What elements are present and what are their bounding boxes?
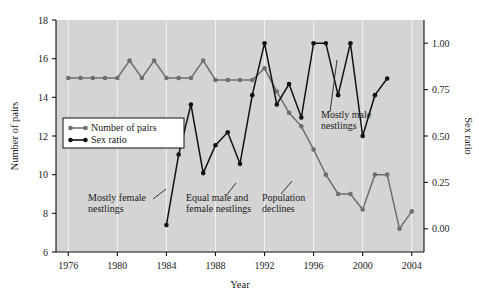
data-point-number-of-pairs xyxy=(311,147,316,152)
data-point-sex-ratio xyxy=(176,152,181,157)
annotation-label-0-line2: nestlings xyxy=(88,203,124,214)
chart-canvas: 6810121416180.000.250.500.751.0019761980… xyxy=(0,0,479,301)
data-point-number-of-pairs xyxy=(397,227,402,232)
legend-marker-1-right xyxy=(83,138,88,143)
data-point-sex-ratio xyxy=(299,115,304,120)
x-axis-tick-label: 1996 xyxy=(304,260,324,271)
y-axis-right-tick-label: 0.50 xyxy=(432,131,450,142)
data-point-number-of-pairs xyxy=(385,172,390,177)
y-axis-left-tick-label: 6 xyxy=(43,247,48,258)
data-point-sex-ratio xyxy=(213,143,218,148)
x-axis-tick-label: 2004 xyxy=(402,260,422,271)
legend-label-0: Number of pairs xyxy=(91,122,157,133)
data-point-sex-ratio xyxy=(348,41,353,46)
y-axis-left-tick-label: 12 xyxy=(38,131,48,142)
annotation-label-2-line2: declines xyxy=(262,203,295,214)
chart-figure: 6810121416180.000.250.500.751.0019761980… xyxy=(0,0,479,301)
data-point-number-of-pairs xyxy=(360,207,365,212)
data-point-number-of-pairs xyxy=(78,76,83,81)
data-point-number-of-pairs xyxy=(213,78,218,83)
data-point-sex-ratio xyxy=(250,93,255,98)
x-axis-tick-label: 2000 xyxy=(353,260,373,271)
annotation-label-2: Population xyxy=(262,192,305,203)
data-point-sex-ratio xyxy=(275,102,280,107)
legend-label-1: Sex ratio xyxy=(91,134,127,145)
data-point-number-of-pairs xyxy=(225,78,230,83)
legend-marker-0-right xyxy=(83,126,88,131)
x-axis-title: Year xyxy=(230,279,250,290)
data-point-number-of-pairs xyxy=(91,76,96,81)
data-point-sex-ratio xyxy=(311,41,316,46)
data-point-sex-ratio xyxy=(324,41,329,46)
annotation-leader-0 xyxy=(153,189,166,199)
annotation-label-0: Mostly female xyxy=(88,192,147,203)
data-point-sex-ratio xyxy=(385,76,390,81)
data-point-number-of-pairs xyxy=(176,76,181,81)
annotation-label-1: Equal male and xyxy=(186,192,248,203)
data-point-sex-ratio xyxy=(238,162,243,167)
y-axis-right-title: Sex ratio xyxy=(463,117,474,155)
data-point-number-of-pairs xyxy=(336,192,341,197)
data-point-number-of-pairs xyxy=(238,78,243,83)
data-point-number-of-pairs xyxy=(164,76,169,81)
y-axis-left-tick-label: 14 xyxy=(38,92,48,103)
data-point-number-of-pairs xyxy=(262,66,267,71)
data-point-sex-ratio xyxy=(201,171,206,176)
y-axis-right-tick-label: 0.75 xyxy=(432,84,450,95)
data-point-number-of-pairs xyxy=(324,172,329,177)
data-point-sex-ratio xyxy=(262,41,267,46)
annotation-label-3-line2: nestlings xyxy=(321,120,357,131)
data-point-sex-ratio xyxy=(336,93,341,98)
y-axis-left-tick-label: 18 xyxy=(38,15,48,26)
data-point-number-of-pairs xyxy=(66,76,71,81)
annotation-label-1-line2: female nestlings xyxy=(186,203,251,214)
data-point-number-of-pairs xyxy=(127,58,132,63)
y-axis-left-tick-label: 16 xyxy=(38,53,48,64)
y-axis-right-tick-label: 1.00 xyxy=(432,38,450,49)
data-point-sex-ratio xyxy=(360,134,365,139)
annotation-label-3: Mostly male xyxy=(321,109,372,120)
data-point-number-of-pairs xyxy=(287,111,292,116)
data-point-sex-ratio xyxy=(164,223,169,228)
legend-marker-0-left xyxy=(68,126,73,131)
data-point-number-of-pairs xyxy=(152,58,157,63)
data-point-number-of-pairs xyxy=(348,192,353,197)
legend-marker-1-left xyxy=(68,138,73,143)
data-point-sex-ratio xyxy=(287,82,292,87)
data-point-number-of-pairs xyxy=(103,76,108,81)
x-axis-tick-label: 1992 xyxy=(255,260,275,271)
x-axis-tick-label: 1988 xyxy=(205,260,225,271)
x-axis-tick-label: 1984 xyxy=(156,260,176,271)
data-point-number-of-pairs xyxy=(299,124,304,129)
data-point-number-of-pairs xyxy=(115,76,120,81)
x-axis-tick-label: 1980 xyxy=(107,260,127,271)
data-point-sex-ratio xyxy=(225,130,230,135)
y-axis-left-tick-label: 10 xyxy=(38,169,48,180)
data-point-sex-ratio xyxy=(373,93,378,98)
data-point-number-of-pairs xyxy=(189,76,194,81)
data-point-number-of-pairs xyxy=(409,209,414,214)
data-point-number-of-pairs xyxy=(140,76,145,81)
data-point-number-of-pairs xyxy=(250,78,255,83)
y-axis-right-tick-label: 0.00 xyxy=(432,223,450,234)
data-point-number-of-pairs xyxy=(201,58,206,63)
x-axis-tick-label: 1976 xyxy=(58,260,78,271)
data-point-number-of-pairs xyxy=(373,172,378,177)
data-point-sex-ratio xyxy=(189,102,194,107)
y-axis-right-tick-label: 0.25 xyxy=(432,177,450,188)
y-axis-left-title: Number of pairs xyxy=(9,102,20,171)
y-axis-left-tick-label: 8 xyxy=(43,208,48,219)
